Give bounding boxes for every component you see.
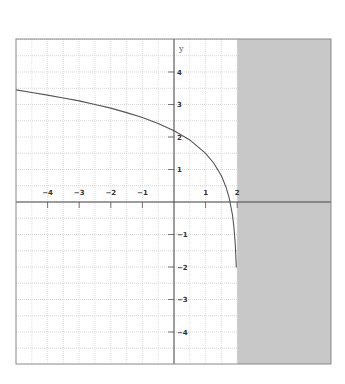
y-tick-label: −4 [177,329,188,337]
y-tick-label: −2 [177,264,188,272]
x-tick-label: −3 [74,189,85,197]
y-axis-label: y [178,44,184,53]
x-tick-label: −4 [42,189,53,197]
y-tick-label: −3 [177,296,188,304]
function-graph: −4−3−2−112 4321−1−2−3−4 y [0,0,345,384]
y-tick-label: 1 [177,166,182,174]
x-tick-label: 1 [203,189,208,197]
x-tick-label: 2 [235,189,240,197]
y-tick-label: 4 [177,69,182,77]
x-tick-label: −1 [137,189,148,197]
function-curve [16,90,237,267]
x-tick-label: −2 [105,189,116,197]
x-axis-ticks: −4−3−2−112 [42,189,240,208]
y-tick-label: −1 [177,231,188,239]
y-tick-label: 3 [177,101,182,109]
